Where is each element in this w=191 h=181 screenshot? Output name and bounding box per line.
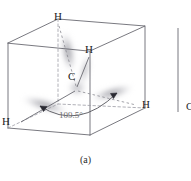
- tetrahedral-molecule-figure: H H C H H 109.5° (a) C: [0, 0, 191, 181]
- orbital-lobe-top: [58, 30, 78, 74]
- atom-label-hydrogen-top: H: [54, 11, 62, 22]
- cube-top-face-edges: [8, 19, 145, 51]
- cube-edge-bottom-back-left: [8, 104, 58, 128]
- atom-label-hydrogen-upper-right: H: [85, 44, 93, 55]
- atom-label-hydrogen-left: H: [2, 116, 10, 127]
- partial-next-figure-carbon-label: C: [186, 101, 191, 112]
- orbital-lobe-right-shape: [89, 81, 135, 105]
- orbital-lobe-right: [89, 81, 135, 105]
- cube-edge-bottom-right: [90, 108, 145, 135]
- atom-label-carbon-center: C: [68, 71, 75, 82]
- cube-edge-bottom-front: [8, 128, 90, 135]
- orbital-lobes-group: [20, 30, 135, 117]
- atom-label-hydrogen-right: H: [142, 99, 150, 110]
- molecule-diagram-svg: [0, 0, 191, 181]
- bond-angle-value-label: 109.5°: [59, 111, 83, 120]
- orbital-lobe-top-shape: [58, 30, 78, 74]
- figure-caption: (a): [80, 155, 91, 165]
